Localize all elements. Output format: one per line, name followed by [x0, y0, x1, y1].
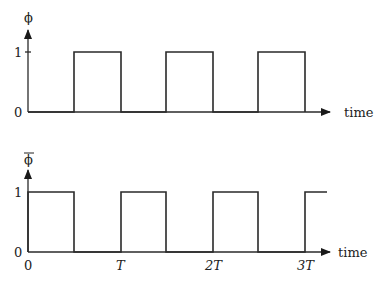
phi-bar-tick-1: 1 — [14, 185, 22, 200]
x-tick-T: T — [116, 258, 126, 273]
phi-tick-0: 0 — [14, 105, 22, 120]
phi-bar-waveform — [28, 192, 327, 252]
phi-bar-label: ϕ — [24, 152, 33, 167]
x-tick-2T: 2T — [204, 258, 223, 273]
phi-bar-time-label: time — [338, 245, 368, 260]
phi-plot: ϕ 1 0 time — [14, 10, 374, 120]
phi-time-label: time — [344, 105, 374, 120]
phi-waveform — [28, 52, 305, 112]
phi-bar-tick-0: 0 — [14, 245, 22, 260]
x-tick-3T: 3T — [297, 258, 315, 273]
phi-bar-plot: ϕ 1 0 time 0 T 2T 3T — [14, 152, 368, 273]
phi-tick-1: 1 — [14, 45, 22, 60]
x-tick-0: 0 — [24, 258, 32, 273]
phi-label: ϕ — [24, 10, 33, 25]
clock-waveform-diagram: ϕ 1 0 time ϕ 1 0 time 0 T 2T 3T — [0, 0, 385, 284]
